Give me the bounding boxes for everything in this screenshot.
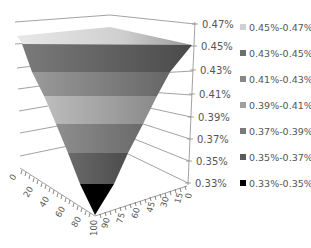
z-label: 0.33%: [195, 178, 227, 189]
band-035-037: [68, 153, 128, 184]
band-045-047: [17, 27, 192, 46]
band-039-041: [44, 96, 157, 124]
y-label: 0: [183, 192, 194, 199]
band-043-045: [22, 44, 192, 72]
z-label: 0.39%: [198, 112, 230, 123]
legend-label: 0.35%-0.37%: [249, 152, 311, 163]
legend-item: 0.37%-0.39%: [240, 118, 311, 144]
legend-label: 0.39%-0.41%: [249, 100, 311, 111]
legend-item: 0.41%-0.43%: [240, 66, 311, 92]
z-label: 0.35%: [196, 156, 228, 167]
legend-swatch-icon: [240, 128, 246, 134]
x-label: 80: [69, 215, 83, 229]
x-label: 60: [53, 205, 67, 219]
x-label: 40: [37, 195, 51, 209]
y-label: 30: [158, 195, 170, 208]
z-axis-labels: 0.47% 0.45% 0.43% 0.41% 0.39% 0.37% 0.35…: [195, 19, 234, 189]
legend-label: 0.45%-0.47%: [249, 22, 311, 33]
z-label: 0.43%: [200, 65, 232, 76]
band-041-043: [32, 72, 170, 96]
band-037-039: [56, 124, 143, 153]
z-label: 0.41%: [199, 89, 231, 100]
legend-item: 0.43%-0.45%: [240, 40, 311, 66]
y-label: 45: [144, 200, 156, 213]
y-label: 60: [129, 206, 141, 219]
legend-label: 0.43%-0.45%: [249, 48, 311, 59]
x-label: 20: [21, 185, 35, 199]
legend-swatch-icon: [240, 76, 246, 82]
legend-label: 0.37%-0.39%: [249, 126, 311, 137]
x-label: 100: [89, 220, 99, 236]
legend-swatch-icon: [240, 102, 246, 108]
legend-item: 0.39%-0.41%: [240, 92, 311, 118]
legend-label: 0.41%-0.43%: [249, 74, 311, 85]
cone-surface: [17, 27, 192, 215]
legend-item: 0.33%-0.35%: [240, 170, 311, 196]
y-label: 90: [99, 216, 111, 229]
legend-item: 0.35%-0.37%: [240, 144, 311, 170]
legend-item: 0.45%-0.47%: [240, 14, 311, 40]
back-wall-lines: [15, 15, 195, 24]
legend-swatch-icon: [240, 180, 246, 186]
z-label: 0.47%: [202, 19, 234, 30]
chart-legend: 0.45%-0.47% 0.43%-0.45% 0.41%-0.43% 0.39…: [240, 14, 311, 196]
z-label: 0.45%: [201, 41, 233, 52]
x-label: 0: [7, 172, 18, 182]
y-label: 75: [114, 211, 126, 224]
legend-swatch-icon: [240, 24, 246, 30]
band-033-035: [80, 184, 114, 215]
z-label: 0.37%: [197, 134, 229, 145]
legend-swatch-icon: [240, 50, 246, 56]
legend-label: 0.33%-0.35%: [249, 178, 311, 189]
y-axis-labels: 90 75 60 45 30 15 0: [99, 191, 194, 229]
legend-swatch-icon: [240, 154, 246, 160]
